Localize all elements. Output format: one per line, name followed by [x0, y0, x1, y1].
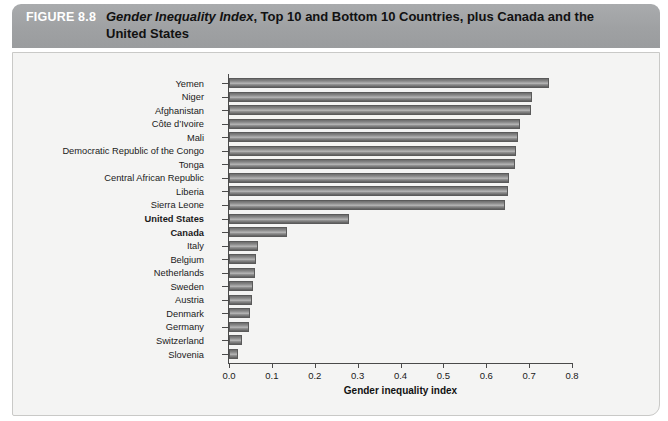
bar-category-label: Niger [182, 92, 204, 102]
bar-category-label: Yemen [175, 79, 204, 89]
x-axis-tick [486, 363, 487, 368]
bar [229, 159, 515, 169]
y-axis-tick [222, 354, 228, 355]
bar-category-label: United States [145, 214, 204, 224]
bar-category-label: Slovenia [168, 350, 204, 360]
bar-category-label: Italy [187, 241, 204, 251]
bar [229, 132, 518, 142]
bar-category-label: Mali [187, 133, 204, 143]
y-axis-tick [222, 327, 228, 328]
bar-category-label: Tonga [179, 160, 204, 170]
x-axis-tick [272, 363, 273, 368]
bar [229, 241, 258, 251]
figure-title: Gender Inequality Index, Top 10 and Bott… [102, 9, 632, 42]
bar [229, 78, 549, 88]
y-axis-tick [222, 205, 228, 206]
bar-category-label: Afghanistan [155, 106, 204, 116]
bar-category-label: Austria [175, 295, 204, 305]
y-axis-tick [222, 83, 228, 84]
bar [229, 349, 238, 359]
bar [229, 281, 253, 291]
y-axis-tick [222, 110, 228, 111]
bar [229, 119, 520, 129]
bar [229, 105, 531, 115]
x-axis-tick-label: 0.7 [523, 370, 536, 381]
bar-category-label: Liberia [176, 187, 204, 197]
bar-category-label: Germany [166, 322, 204, 332]
bar [229, 295, 252, 305]
bar [229, 308, 250, 318]
bar-category-label: Central African Republic [104, 173, 204, 183]
bar-category-label: Democratic Republic of the Congo [62, 146, 204, 156]
x-axis-tick [443, 363, 444, 368]
bar [229, 227, 287, 237]
figure-page: FIGURE 8.8 Gender Inequality Index, Top … [0, 0, 668, 421]
x-axis-tick-label: 0.1 [265, 370, 278, 381]
x-axis-tick-label: 0.4 [394, 370, 407, 381]
y-axis-tick [222, 178, 228, 179]
x-axis-tick [572, 363, 573, 368]
y-axis-tick [222, 246, 228, 247]
x-axis-tick [529, 363, 530, 368]
bar-category-label: Belgium [170, 255, 204, 265]
x-axis-tick-label: 0.0 [222, 370, 235, 381]
x-axis-tick [401, 363, 402, 368]
y-axis-tick [222, 313, 228, 314]
y-axis-tick [222, 124, 228, 125]
x-axis-tick-label: 0.3 [351, 370, 364, 381]
y-axis-tick [222, 164, 228, 165]
bar-category-label: Netherlands [154, 268, 204, 278]
y-axis-tick [222, 219, 228, 220]
chart-panel: YemenNigerAfghanistanCôte d’IvoireMaliDe… [12, 52, 660, 416]
figure-title-italic-part: Gender Inequality Index [106, 9, 253, 24]
figure-header: FIGURE 8.8 Gender Inequality Index, Top … [12, 4, 660, 48]
y-axis-tick [222, 97, 228, 98]
x-axis-tick-label: 0.2 [308, 370, 321, 381]
bar [229, 146, 516, 156]
y-axis-tick [222, 286, 228, 287]
x-axis-tick [315, 363, 316, 368]
bar-category-label: Côte d’Ivoire [152, 119, 204, 129]
bar-category-label: Denmark [166, 309, 204, 319]
bar [229, 173, 509, 183]
bar [229, 200, 505, 210]
bar [229, 322, 249, 332]
x-axis-title: Gender inequality index [228, 385, 573, 396]
y-axis-tick [222, 300, 228, 301]
bar-category-label: Canada [170, 228, 204, 238]
y-axis-tick [222, 151, 228, 152]
x-axis-tick-label: 0.8 [565, 370, 578, 381]
x-axis-tick-label: 0.5 [437, 370, 450, 381]
bar-category-label: Sweden [170, 282, 204, 292]
y-axis-tick [222, 340, 228, 341]
y-axis-tick [222, 191, 228, 192]
bar [229, 335, 242, 345]
x-axis-tick [358, 363, 359, 368]
bar-category-label: Sierra Leone [151, 200, 204, 210]
y-axis-tick [222, 137, 228, 138]
bar [229, 214, 349, 224]
y-axis-tick [222, 273, 228, 274]
bar [229, 254, 256, 264]
bar [229, 186, 508, 196]
bar-category-label: Switzerland [156, 336, 204, 346]
bar [229, 92, 532, 102]
y-axis-tick [222, 259, 228, 260]
plot-area: YemenNigerAfghanistanCôte d’IvoireMaliDe… [13, 53, 659, 415]
x-axis-tick [229, 363, 230, 368]
x-axis-tick-label: 0.6 [480, 370, 493, 381]
y-axis-tick [222, 232, 228, 233]
bar [229, 268, 255, 278]
figure-number-label: FIGURE 8.8 [26, 9, 102, 24]
